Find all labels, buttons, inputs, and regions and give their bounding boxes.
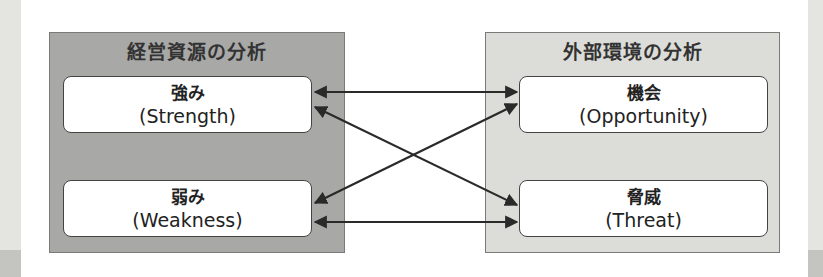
connection-arrows [0, 0, 823, 277]
arrow-weakness-opportunity [315, 104, 517, 203]
arrow-strength-threat [315, 107, 517, 205]
